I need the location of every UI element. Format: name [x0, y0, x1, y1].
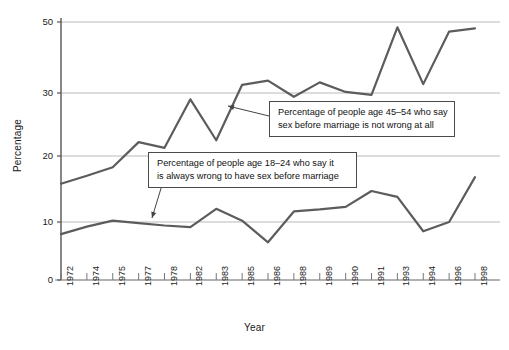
- y-tick-label-50: 50: [29, 16, 53, 27]
- x-tick-label-1977: 1977: [143, 266, 153, 286]
- arrow-head-18-24: [151, 212, 156, 218]
- x-tick-label-1988: 1988: [298, 266, 308, 286]
- callout-age-18-24: Percentage of people age 18–24 who say i…: [148, 152, 357, 188]
- x-tick-label-1994: 1994: [427, 266, 437, 286]
- callout-age-45-54-line2: sex before marriage is not wrong at all: [278, 119, 447, 132]
- callout-age-45-54-line1: Percentage of people age 45–54 who say: [278, 106, 447, 119]
- x-tick-label-1974: 1974: [91, 266, 101, 286]
- arrow-line-45-54: [228, 106, 269, 116]
- callout-age-18-24-line1: Percentage of people age 18–24 who say i…: [157, 157, 349, 170]
- y-tick-label-20: 20: [29, 150, 53, 161]
- x-tick-label-1990: 1990: [350, 266, 360, 286]
- x-tick-label-1991: 1991: [376, 266, 386, 286]
- x-tick-label-1978: 1978: [169, 266, 179, 286]
- x-tick-label-1972: 1972: [65, 266, 75, 286]
- y-tick-label-10: 10: [29, 216, 53, 227]
- x-tick-label-1983: 1983: [220, 266, 230, 286]
- x-tick-label-1985: 1985: [246, 266, 256, 286]
- y-axis-title: Percentage: [12, 101, 23, 191]
- y-tick-label-0: 0: [29, 274, 53, 285]
- x-tick-label-1998: 1998: [479, 266, 489, 286]
- callout-age-45-54: Percentage of people age 45–54 who say s…: [269, 101, 455, 137]
- x-tick-label-1986: 1986: [272, 266, 282, 286]
- x-tick-label-1993: 1993: [401, 266, 411, 286]
- x-tick-label-1982: 1982: [194, 266, 204, 286]
- x-tick-label-1975: 1975: [117, 266, 127, 286]
- x-tick-label-1996: 1996: [453, 266, 463, 286]
- callout-age-18-24-line2: is always wrong to have sex before marri…: [157, 170, 349, 183]
- chart-figure: Percentage Year 503020100 19721974197519…: [0, 0, 509, 350]
- x-axis-title: Year: [0, 322, 509, 333]
- x-tick-label-1989: 1989: [324, 266, 334, 286]
- y-tick-label-30: 30: [29, 87, 53, 98]
